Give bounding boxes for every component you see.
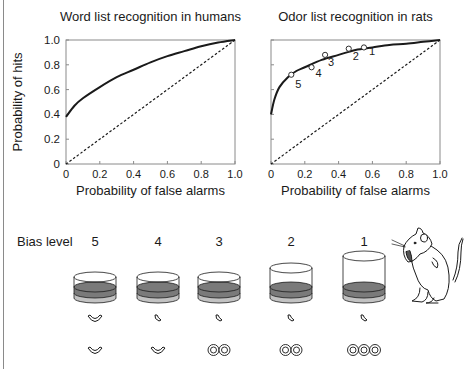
x-tick-label: 0.8 (194, 168, 209, 180)
bias-level-number: 3 (215, 234, 222, 249)
data-point-marker (346, 46, 351, 51)
bias-level-4: 4 (137, 234, 179, 354)
x-tick-label: 0.8 (399, 168, 414, 180)
data-point-marker (361, 45, 366, 50)
y-tick-label: 0.8 (44, 59, 60, 71)
bias-level-label: Bias level (17, 234, 73, 249)
cereal-ring-hole (222, 347, 228, 353)
small-cereal-piece-icon (288, 315, 294, 321)
data-point-marker (309, 65, 314, 70)
bias-level-panel: Bias level54321 (17, 228, 463, 356)
x-tick-label: 1.0 (432, 168, 447, 180)
cereal-ring-hole (211, 347, 217, 353)
data-point-label: 2 (353, 50, 359, 62)
rat-whiskers (392, 240, 405, 247)
large-cereal-piece-icon (88, 347, 102, 354)
x-tick-label: 0.6 (160, 168, 175, 180)
cup-sand-surface (343, 282, 385, 292)
x-tick-label: 0.6 (365, 168, 380, 180)
x-axis-label: Probability of false alarms (76, 183, 225, 198)
cup-rim (74, 272, 116, 282)
x-tick-label: 0.2 (92, 168, 107, 180)
x-tick-label: 0.4 (331, 168, 346, 180)
bias-level-1: 1 (343, 234, 385, 356)
roc-curve-line (66, 40, 235, 117)
data-point-marker (322, 52, 327, 57)
bias-level-number: 5 (91, 234, 98, 249)
data-point-label: 4 (316, 67, 322, 79)
data-point-label: 3 (328, 56, 334, 68)
rat-hind-leg (412, 288, 428, 302)
x-tick-label: 1.0 (227, 168, 242, 180)
y-tick-label: 0.6 (44, 84, 60, 96)
cup-rim (198, 272, 240, 282)
rat-ear (421, 234, 428, 242)
y-tick-label: 0.4 (44, 108, 61, 120)
bias-level-5: 5 (74, 234, 116, 354)
cup-sand-surface (74, 282, 116, 292)
x-tick-label: 0 (63, 168, 69, 180)
bias-level-3: 3 (198, 234, 240, 356)
cereal-ring-hole (294, 347, 300, 353)
large-cereal-piece-icon (88, 315, 102, 322)
x-tick-label: 0.4 (126, 168, 141, 180)
x-axis-label: Probability of false alarms (281, 183, 430, 198)
rat-eye (414, 242, 416, 244)
chart-title: Odor list recognition in rats (278, 9, 433, 24)
bias-level-2: 2 (270, 234, 312, 356)
small-cereal-piece-icon (155, 315, 161, 321)
cup-rim (270, 263, 312, 273)
cup-sand-surface (198, 282, 240, 292)
x-tick-label: 0.2 (297, 168, 312, 180)
small-cereal-piece-icon (361, 315, 367, 321)
cereal-ring-hole (350, 347, 356, 353)
chart-humans: Word list recognition in humans00.20.40.… (10, 9, 243, 198)
data-point-label: 1 (369, 45, 375, 57)
figure-canvas: Word list recognition in humans00.20.40.… (0, 0, 475, 369)
bias-level-number: 1 (360, 234, 367, 249)
y-tick-label: 0 (54, 158, 60, 170)
cereal-ring-hole (361, 347, 367, 353)
cereal-ring-hole (283, 347, 289, 353)
x-tick-label: 0 (268, 168, 274, 180)
large-cereal-piece-icon (151, 347, 165, 354)
chart-title: Word list recognition in humans (60, 9, 242, 24)
y-tick-label: 1.0 (44, 34, 60, 46)
bias-level-number: 4 (154, 234, 161, 249)
y-axis-label: Probability of hits (10, 52, 25, 151)
y-tick-label: 0.2 (44, 133, 60, 145)
cereal-ring-hole (372, 347, 378, 353)
bias-level-number: 2 (287, 234, 294, 249)
chance-diagonal-line (66, 40, 235, 164)
cup-sand-surface (270, 282, 312, 292)
data-point-marker (289, 72, 294, 77)
small-cereal-piece-icon (216, 315, 222, 321)
cup-rim (137, 272, 179, 282)
cup-sand-surface (137, 282, 179, 292)
cup-rim (343, 251, 385, 261)
data-point-label: 5 (295, 78, 301, 90)
chart-rats: Odor list recognition in rats00.20.40.60… (268, 9, 448, 198)
rat-illustration (392, 228, 463, 303)
